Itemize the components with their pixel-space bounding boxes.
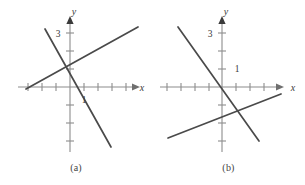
y-tick-label-3-b: 3 [208,29,213,39]
data-line-falling-b [178,27,259,141]
y-axis-label-b: y [223,6,229,17]
x-axis-label-b: x [290,82,296,93]
caption-b: (b) [152,162,305,173]
data-line-rising-a [26,27,138,89]
y-axis-label-a: y [71,6,77,17]
y-tick-label-3-a: 3 [56,29,61,39]
x-tick-label-1-b: 1 [235,64,240,74]
panel-a: x y 3 1 (a) [0,0,152,185]
panel-b: x y 3 1 (b) [152,0,305,185]
data-line-rising-b [168,94,281,138]
y-axis-a [66,16,73,152]
caption-a: (a) [0,162,152,173]
figure-two-line-graphs: x y 3 1 (a) [0,0,305,185]
plot-a: x y 3 1 [0,0,152,185]
x-axis-label-a: x [139,82,145,93]
plot-b: x y 3 1 [152,0,305,185]
x-tick-label-1-a: 1 [82,95,87,105]
